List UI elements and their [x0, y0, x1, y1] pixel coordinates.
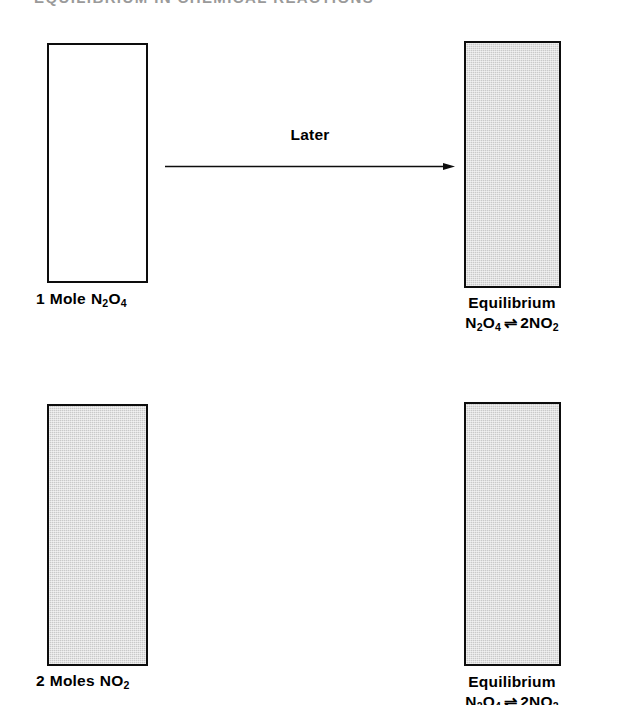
formula-top-no-sub: 2: [553, 321, 559, 333]
diagram-row-top: 1MoleN2O4 Later Equilibrium N2O4⇌2NO2: [0, 0, 622, 352]
formula-bottom-n: N: [465, 693, 476, 705]
diagram-row-bottom: 2MolesNO2 Later Equilibrium N2O4⇌2NO2: [0, 361, 622, 705]
caption-bottom-right: Equilibrium: [437, 673, 587, 692]
caption-top-left-quantity: 1: [36, 290, 45, 307]
formula-bottom-no: NO: [529, 693, 553, 705]
vessel-bottom-left-filled: [47, 404, 148, 666]
formula-top-n: N: [465, 314, 476, 331]
vessel-top-right-filled: [464, 41, 561, 288]
caption-top-left-element-n: N: [91, 290, 102, 307]
caption-bottom-left: 2MolesNO2: [36, 672, 129, 692]
equilibrium-formula-top: N2O4⇌2NO2: [437, 312, 587, 334]
formula-top-o-sub: 4: [495, 321, 501, 333]
caption-top-left: 1MoleN2O4: [36, 290, 127, 310]
equilibrium-title-bottom: Equilibrium: [437, 673, 587, 692]
vessel-top-left-empty: [47, 43, 148, 283]
equilibrium-title-top: Equilibrium: [437, 294, 587, 313]
caption-top-left-sub-4: 4: [121, 297, 127, 309]
caption-top-left-unit: Mole: [50, 290, 86, 307]
caption-bottom-left-unit: Moles: [50, 672, 95, 689]
caption-top-right: Equilibrium: [437, 294, 587, 313]
arrow-label-top: Later: [165, 126, 455, 144]
equilibrium-harpoon-icon-bottom: ⇌: [504, 693, 517, 705]
formula-top-no: NO: [529, 314, 553, 331]
formula-bottom-o-sub: 4: [495, 700, 501, 705]
formula-bottom-coefficient: 2: [520, 693, 529, 705]
formula-top-o: O: [483, 314, 495, 331]
equilibrium-formula-bottom: N2O4⇌2NO2: [437, 691, 587, 705]
caption-top-left-element-o: O: [108, 290, 120, 307]
caption-bottom-left-sub-2: 2: [123, 679, 129, 691]
formula-bottom-o: O: [483, 693, 495, 705]
right-arrow-icon-top: [165, 162, 455, 171]
equilibrium-harpoon-icon-top: ⇌: [504, 314, 517, 333]
formula-bottom-no-sub: 2: [553, 700, 559, 705]
vessel-bottom-right-filled: [464, 402, 561, 666]
caption-bottom-left-compound: NO: [100, 672, 124, 689]
caption-bottom-left-quantity: 2: [36, 672, 45, 689]
formula-top-coefficient: 2: [520, 314, 529, 331]
